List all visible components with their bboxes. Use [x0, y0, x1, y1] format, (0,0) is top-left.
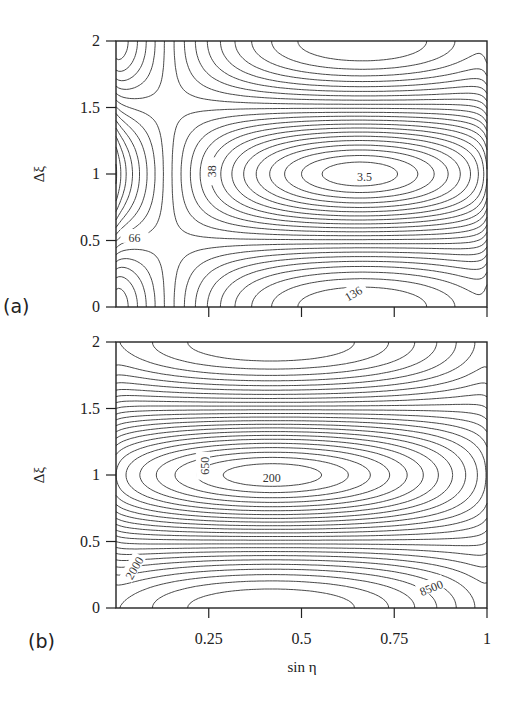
- x-axis-label: sin η: [287, 659, 316, 675]
- y-axis-ticks: 00.511.52: [80, 32, 116, 315]
- y-tick-label: 1: [92, 165, 100, 182]
- y-tick-label: 0.5: [80, 232, 100, 249]
- y-tick-label: 2: [92, 32, 100, 49]
- contour-line: [116, 41, 455, 307]
- contour-line: [116, 342, 456, 608]
- x-axis-ticks: 0.250.50.751: [195, 608, 491, 647]
- contour-line: [116, 342, 475, 608]
- y-axis-label: Δξ: [31, 166, 47, 183]
- contour-label: 38: [205, 165, 219, 177]
- contour-label: 650: [198, 457, 212, 475]
- contour-figure: 3.53866136 00.511.52 Δξ (a) 200650200085…: [0, 0, 513, 708]
- contour-lines: [116, 342, 487, 608]
- x-tick-label: 0.5: [292, 630, 312, 647]
- y-tick-label: 1.5: [80, 400, 100, 417]
- panel-label-b: (b): [28, 630, 55, 652]
- y-tick-label: 1.5: [80, 99, 100, 116]
- panel-a: 3.53866136 00.511.52 Δξ (a): [3, 32, 487, 317]
- contour-lines: [116, 41, 487, 307]
- contour-label: 66: [129, 231, 141, 245]
- panel-b: 20065020008500 00.511.52 0.250.50.751 Δξ…: [28, 333, 491, 652]
- y-tick-label: 0: [92, 298, 100, 315]
- contour-line: [116, 410, 487, 540]
- contour-label: 3.5: [357, 170, 372, 184]
- x-axis-ticks: [209, 307, 487, 317]
- contour-label: 200: [263, 471, 281, 485]
- panel-label-a: (a): [3, 295, 29, 317]
- contour-label: 8500: [418, 577, 445, 599]
- contour-line: [116, 404, 487, 545]
- x-tick-label: 0.75: [380, 630, 408, 647]
- y-axis-ticks: 00.511.52: [80, 333, 116, 616]
- y-tick-label: 1: [92, 466, 100, 483]
- x-tick-label: 1: [483, 630, 491, 647]
- y-tick-label: 0: [92, 599, 100, 616]
- x-tick-label: 0.25: [195, 630, 223, 647]
- y-tick-label: 0.5: [80, 533, 100, 550]
- y-tick-label: 2: [92, 333, 100, 350]
- contour-labels: 3.53866136: [121, 157, 379, 305]
- contour-line: [116, 421, 486, 530]
- y-axis-label: Δξ: [31, 467, 47, 484]
